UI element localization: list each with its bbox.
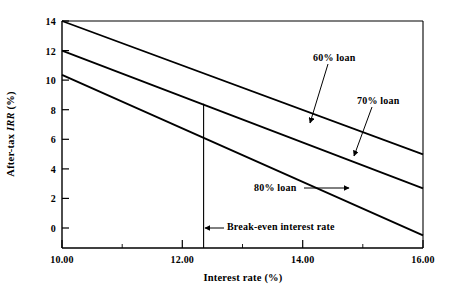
annotation-label-breakeven: Break-even interest rate [227,221,335,232]
series-line-60-loan [62,21,423,154]
y-tick-label-0: 0 [34,223,56,234]
y-tick-label-14: 14 [34,16,56,27]
series-label-70-loan: 70% loan [357,95,399,106]
y-axis-title-plain: After-tax [5,131,16,177]
y-tick-label-6: 6 [34,134,56,145]
y-tick-label-2: 2 [34,193,56,204]
y-axis-title-italic: IRR [5,112,16,131]
annotation-leader-60-loan [310,64,328,123]
x-axis-title: Interest rate (%) [203,272,282,283]
y-tick-label-12: 12 [34,45,56,56]
chart-figure: 14 12 10 8 6 4 2 0 10.00 12.00 14.00 16.… [0,0,458,294]
chart-plot-area [0,0,458,294]
x-tick-label-16: 16.00 [411,254,435,265]
series-line-70-loan [62,51,423,189]
annotation-leader-70-loan [354,107,372,156]
y-tick-label-8: 8 [34,104,56,115]
y-axis-title-tail: (%) [5,91,16,112]
y-axis-title: After-tax IRR (%) [5,91,16,176]
x-tick-label-12: 12.00 [171,254,195,265]
x-axis-ticks [62,240,423,248]
x-tick-label-10: 10.00 [50,254,74,265]
x-tick-label-14: 14.00 [291,254,315,265]
series-label-80-loan: 80% loan [254,182,296,193]
y-tick-label-10: 10 [34,75,56,86]
y-tick-label-4: 4 [34,163,56,174]
series-label-60-loan: 60% loan [313,52,355,63]
